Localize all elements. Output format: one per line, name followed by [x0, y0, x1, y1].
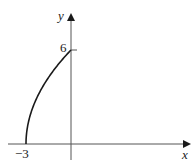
y-axis-arrow-icon: [67, 13, 75, 21]
y-tick-label: 6: [60, 41, 67, 54]
function-curve: [26, 50, 71, 144]
x-tick-label: −3: [15, 147, 29, 160]
y-axis-label: y: [58, 9, 64, 22]
function-graph: [0, 0, 194, 168]
x-axis-label: x: [182, 148, 188, 161]
